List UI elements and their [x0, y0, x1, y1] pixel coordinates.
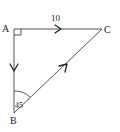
arrow-icon-bc [59, 64, 67, 72]
vertex-label-a: A [2, 23, 10, 34]
right-angle-marker [14, 29, 21, 35]
edge-label-ac: 10 [51, 13, 61, 23]
vertex-label-b: B [10, 115, 17, 126]
vector-triangle-diagram: A C B 10 45 ° [0, 0, 120, 132]
vertex-label-c: C [104, 24, 111, 35]
degree-symbol: ° [27, 97, 29, 102]
angle-label-b: 45 [15, 101, 23, 110]
